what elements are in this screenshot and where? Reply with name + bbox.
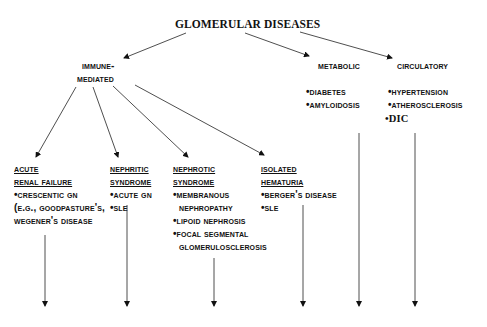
nephritic-title2: SYNDROME bbox=[110, 175, 152, 188]
nephrotic-item: GLOMERULOSCLEROSIS bbox=[173, 240, 267, 253]
acute-item: WEGENER'S DISEASE bbox=[14, 214, 105, 227]
nephrotic-item: NEPHROPATHY bbox=[173, 201, 267, 214]
acute-title1: ACUTE bbox=[14, 162, 105, 175]
subcategory-nephritic-syndrome: NEPHRITIC SYNDROME •ACUTE GN •SLE bbox=[110, 162, 152, 214]
acute-item: (E.G., GOODPASTURE'S, bbox=[14, 201, 105, 214]
nephrotic-item: •FOCAL SEGMENTAL bbox=[173, 227, 267, 240]
diagram-title: GLOMERULAR DISEASES bbox=[175, 18, 320, 31]
hematuria-item: •BERGER'S DISEASE bbox=[261, 188, 337, 201]
metabolic-item: •DIABETES bbox=[306, 85, 360, 98]
arrow-to-metabolic bbox=[245, 33, 309, 56]
hematuria-title2: HEMATURIA bbox=[261, 175, 337, 188]
circulatory-items: •HYPERTENSION •ATHEROSCLEROSIS bbox=[388, 85, 463, 111]
category-metabolic-label: METABOLIC bbox=[318, 59, 360, 72]
subcategory-acute-renal-failure: ACUTE RENAL FAILURE •CRESCENTIC GN (E.G.… bbox=[14, 162, 105, 227]
acute-item: •CRESCENTIC GN bbox=[14, 188, 105, 201]
nephritic-title1: NEPHRITIC bbox=[110, 162, 152, 175]
acute-title2: RENAL FAILURE bbox=[14, 175, 105, 188]
nephrotic-item: •MEMBRANOUS bbox=[173, 188, 267, 201]
hematuria-item: •SLE bbox=[261, 201, 337, 214]
arrow-to-isolated-hematuria bbox=[135, 85, 264, 155]
circulatory-item-dic: •DIC bbox=[385, 112, 408, 125]
metabolic-item: •AMYLOIDOSIS bbox=[306, 98, 360, 111]
metabolic-items: •DIABETES •AMYLOIDOSIS bbox=[306, 85, 360, 111]
nephritic-item: •ACUTE GN bbox=[110, 188, 152, 201]
category-immune-mediated: IMMUNE- MEDIATED bbox=[82, 59, 114, 85]
arrow-to-nephritic bbox=[93, 87, 118, 157]
arrow-to-immune bbox=[124, 33, 186, 58]
hematuria-title1: ISOLATED bbox=[261, 162, 337, 175]
category-circulatory-label: CIRCULATORY bbox=[397, 59, 448, 72]
immune-line2: MEDIATED bbox=[77, 72, 114, 85]
immune-line1: IMMUNE- bbox=[82, 59, 114, 72]
subcategory-isolated-hematuria: ISOLATED HEMATURIA •BERGER'S DISEASE •SL… bbox=[261, 162, 337, 214]
nephrotic-title2: SYNDROME bbox=[173, 175, 267, 188]
arrow-to-nephrotic bbox=[113, 86, 188, 157]
arrow-to-circulatory bbox=[300, 32, 392, 58]
circulatory-item: •HYPERTENSION bbox=[388, 85, 463, 98]
nephritic-item: •SLE bbox=[110, 201, 152, 214]
arrow-to-acute-renal-failure bbox=[36, 87, 76, 157]
nephrotic-item: •LIPOID NEPHROSIS bbox=[173, 214, 267, 227]
circulatory-item: •ATHEROSCLEROSIS bbox=[388, 98, 463, 111]
subcategory-nephrotic-syndrome: NEPHROTIC SYNDROME •MEMBRANOUS NEPHROPAT… bbox=[173, 162, 267, 253]
nephrotic-title1: NEPHROTIC bbox=[173, 162, 267, 175]
